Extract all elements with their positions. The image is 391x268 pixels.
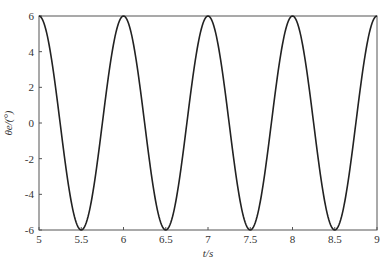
plot-frame [39,16,377,230]
y-tick-label: 0 [29,117,35,129]
y-tick-label: -4 [25,188,35,200]
y-axis-title: θe/(°) [2,110,15,135]
y-tick-label: -2 [25,153,34,165]
x-tick-label: 5.5 [74,233,88,245]
x-tick-label: 5 [36,233,42,245]
x-tick-label: 7.5 [243,233,257,245]
x-tick-label: 7 [205,233,211,245]
x-tick-label: 8.5 [328,233,342,245]
y-tick-label: 4 [29,46,35,58]
x-tick-label: 6.5 [159,233,173,245]
y-tick-label: 2 [29,81,35,93]
x-axis-title: t/s [203,247,213,259]
y-tick-label: 6 [29,10,35,22]
x-tick-label: 6 [121,233,127,245]
x-tick-label: 9 [374,233,380,245]
x-tick-label: 8 [290,233,296,245]
data-series-theta-e [39,16,377,230]
line-chart: 55.566.577.588.59 -6-4-20246 t/s θe/(°) [0,0,391,268]
y-tick-label: -6 [25,224,35,236]
